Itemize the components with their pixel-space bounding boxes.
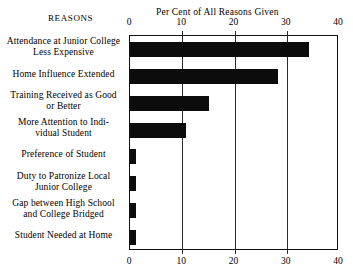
bar: [130, 203, 136, 218]
category-label: Attendance at Junior College Less Expens…: [0, 36, 127, 58]
reasons-column-header: Reasons: [48, 13, 93, 23]
category-label: Student Needed at Home: [0, 230, 127, 241]
tick-mark-bottom-30: [287, 249, 288, 254]
category-label: Duty to Patronize Local Junior College: [0, 171, 127, 193]
x-tick-label-top-0: 0: [127, 17, 132, 27]
bar: [130, 149, 136, 164]
tick-mark-top-20: [235, 31, 236, 36]
category-label: Preference of Student: [0, 149, 127, 160]
bar-chart: Reasons Per Cent of All Reasons Given 01…: [0, 0, 353, 274]
gridline-30: [287, 36, 288, 249]
x-tick-label-bottom-0: 0: [127, 256, 132, 266]
bar: [130, 42, 309, 57]
x-tick-label-bottom-10: 10: [177, 256, 187, 266]
bar: [130, 96, 209, 111]
tick-mark-top-30: [287, 31, 288, 36]
bar: [130, 230, 136, 245]
plot-area: [129, 35, 338, 250]
x-tick-label-bottom-20: 20: [229, 256, 239, 266]
tick-mark-top-10: [182, 31, 183, 36]
x-tick-label-bottom-30: 30: [281, 256, 291, 266]
category-label: Gap between High School and College Brid…: [0, 198, 127, 220]
category-label: More Attention to Indi- vidual Student: [0, 117, 127, 139]
x-tick-label-top-10: 10: [177, 17, 187, 27]
bar: [130, 176, 136, 191]
x-tick-label-bottom-40: 40: [333, 256, 343, 266]
category-label: Home Influence Extended: [0, 69, 127, 80]
chart-title: Per Cent of All Reasons Given: [156, 7, 279, 17]
bar: [130, 69, 278, 84]
x-tick-label-top-40: 40: [333, 17, 343, 27]
bar: [130, 123, 186, 138]
x-tick-label-top-30: 30: [281, 17, 291, 27]
tick-mark-bottom-10: [182, 249, 183, 254]
category-labels: Attendance at Junior College Less Expens…: [0, 35, 127, 250]
category-label: Training Received as Good or Better: [0, 90, 127, 112]
tick-mark-bottom-20: [235, 249, 236, 254]
x-tick-label-top-20: 20: [229, 17, 239, 27]
